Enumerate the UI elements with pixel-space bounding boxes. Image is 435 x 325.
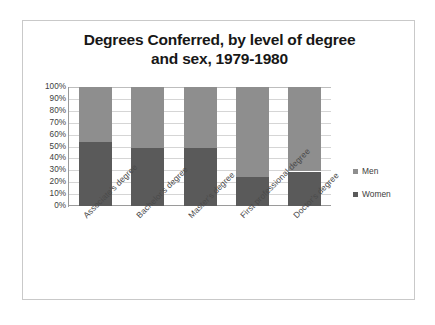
y-axis-tick-label: 90% bbox=[24, 95, 66, 103]
legend-swatch-icon bbox=[353, 192, 358, 197]
legend-item[interactable]: Men bbox=[353, 166, 413, 176]
chart-title: Degrees Conferred, by level of degree an… bbox=[41, 30, 398, 68]
bar-segment-men[interactable] bbox=[131, 87, 164, 148]
legend-item[interactable]: Women bbox=[353, 189, 413, 199]
bar-segment-men[interactable] bbox=[184, 87, 217, 148]
legend-swatch-icon bbox=[353, 169, 358, 174]
y-axis-tick-label: 70% bbox=[24, 119, 66, 127]
y-axis-tick-label: 100% bbox=[24, 83, 66, 91]
chart-legend: MenWomen bbox=[353, 166, 413, 212]
y-axis-tick-label: 50% bbox=[24, 143, 66, 151]
y-axis-tick-labels: 100%90%80%70%60%50%40%30%20%10%0% bbox=[23, 87, 66, 206]
bar-segment-men[interactable] bbox=[79, 87, 112, 142]
y-axis-tick-label: 30% bbox=[24, 166, 66, 174]
y-axis-tick-label: 0% bbox=[24, 202, 66, 210]
legend-label: Women bbox=[362, 189, 391, 199]
bar-segment-men[interactable] bbox=[236, 87, 269, 177]
y-axis-tick-label: 20% bbox=[24, 178, 66, 186]
y-axis-tick-label: 60% bbox=[24, 131, 66, 139]
chart-title-line-2: and sex, 1979-1980 bbox=[41, 49, 398, 68]
y-axis-tick-label: 10% bbox=[24, 190, 66, 198]
y-axis-tick-label: 40% bbox=[24, 154, 66, 162]
x-axis-category-labels: Associate's degreeBachelor's degreeMaste… bbox=[69, 207, 369, 299]
chart-title-line-1: Degrees Conferred, by level of degree bbox=[84, 31, 356, 48]
chart-container: Degrees Conferred, by level of degree an… bbox=[22, 20, 415, 300]
y-axis-tick-label: 80% bbox=[24, 107, 66, 115]
legend-label: Men bbox=[362, 166, 378, 176]
